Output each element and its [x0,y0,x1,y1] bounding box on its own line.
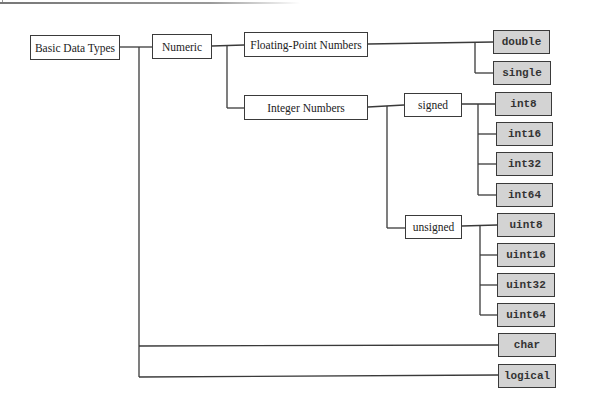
leaf-int16: int16 [496,122,553,146]
node-basic-data-types: Basic Data Types [30,35,120,60]
leaf-logical: logical [498,364,556,388]
leaf-int32: int32 [496,152,553,176]
node-floating-point-numbers: Floating-Point Numbers [244,32,368,57]
leaf-double: double [493,30,550,54]
leaf-char: char [498,333,556,357]
leaf-int8: int8 [495,92,552,116]
node-unsigned: unsigned [405,215,462,239]
leaf-uint16: uint16 [497,243,555,267]
node-integer-numbers: Integer Numbers [244,95,368,120]
leaf-int64: int64 [496,183,553,207]
leaf-uint8: uint8 [497,213,555,237]
leaf-uint32: uint32 [497,273,555,297]
leaf-uint64: uint64 [497,303,555,327]
node-signed: signed [404,93,462,117]
node-numeric: Numeric [152,34,212,59]
leaf-single: single [493,61,551,85]
